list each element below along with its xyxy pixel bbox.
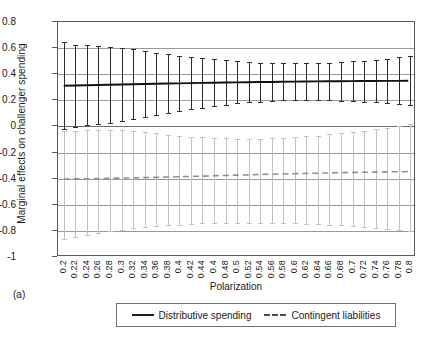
error-bar-cap-lower bbox=[235, 103, 240, 104]
error-bar-cap-lower bbox=[189, 109, 194, 110]
error-bar-cap-lower bbox=[281, 100, 286, 101]
error-bar-stem bbox=[410, 56, 411, 106]
x-tick-label: 0.24 bbox=[81, 260, 91, 278]
error-bar-cap-lower bbox=[316, 224, 321, 225]
error-bar-stem bbox=[98, 130, 99, 234]
error-bar-cap-lower bbox=[166, 113, 171, 114]
x-tick-label: 0.22 bbox=[69, 260, 79, 278]
error-bar-stem bbox=[376, 60, 377, 104]
error-bar-cap-upper bbox=[408, 56, 413, 57]
error-bar-stem bbox=[318, 136, 319, 226]
error-bar-cap-lower bbox=[304, 224, 309, 225]
error-bar-stem bbox=[364, 131, 365, 228]
error-bar-cap-upper bbox=[62, 42, 67, 43]
error-bar-cap-upper bbox=[212, 138, 217, 139]
error-bar-cap-upper bbox=[143, 132, 148, 133]
error-bar-cap-lower bbox=[62, 239, 67, 240]
x-tick-label: 0.58 bbox=[277, 260, 287, 278]
x-tick-label: 0.64 bbox=[312, 260, 322, 278]
error-bar-stem bbox=[341, 133, 342, 226]
error-bar-cap-lower bbox=[408, 105, 413, 106]
x-tick-label: 0.32 bbox=[127, 260, 137, 278]
legend-solid-line-icon bbox=[132, 314, 154, 316]
error-bar-stem bbox=[226, 60, 227, 105]
error-bar-stem bbox=[64, 42, 65, 130]
gridline bbox=[58, 100, 414, 101]
error-bar-cap-upper bbox=[96, 46, 101, 47]
error-bar-stem bbox=[399, 57, 400, 105]
error-bar-cap-upper bbox=[143, 51, 148, 52]
error-bar-cap-upper bbox=[96, 130, 101, 131]
error-bar-stem bbox=[295, 63, 296, 101]
gridline bbox=[58, 48, 414, 49]
x-tick-label: 0.26 bbox=[92, 260, 102, 278]
error-bar-stem bbox=[329, 134, 330, 225]
error-bar-cap-lower bbox=[304, 100, 309, 101]
error-bar-cap-lower bbox=[258, 223, 263, 224]
error-bar-cap-lower bbox=[189, 224, 194, 225]
error-bar-cap-upper bbox=[247, 62, 252, 63]
error-bar-cap-upper bbox=[177, 136, 182, 137]
error-bar-stem bbox=[87, 45, 88, 126]
error-bar-cap-lower bbox=[397, 104, 402, 105]
y-tick-label: 0.6 bbox=[0, 42, 16, 53]
error-bar-stem bbox=[226, 138, 227, 224]
legend-label-contingent-liabilities: Contingent liabilities bbox=[291, 310, 380, 321]
error-bar-cap-lower bbox=[270, 101, 275, 102]
error-bar-cap-upper bbox=[235, 139, 240, 140]
error-bar-cap-lower bbox=[293, 223, 298, 224]
error-bar-cap-lower bbox=[143, 227, 148, 228]
error-bar-stem bbox=[191, 137, 192, 226]
error-bar-cap-upper bbox=[408, 124, 413, 125]
error-bar-cap-upper bbox=[62, 131, 67, 132]
error-bar-stem bbox=[283, 63, 284, 101]
error-bar-cap-lower bbox=[351, 226, 356, 227]
error-bar-stem bbox=[376, 129, 377, 229]
error-bar-cap-upper bbox=[85, 130, 90, 131]
error-bar-cap-upper bbox=[327, 134, 332, 135]
legend-item-distributive-spending: Distributive spending bbox=[132, 310, 252, 321]
error-bar-cap-lower bbox=[247, 223, 252, 224]
error-bar-cap-upper bbox=[189, 57, 194, 58]
error-bar-cap-upper bbox=[397, 126, 402, 127]
x-tick-label: 0.4 bbox=[173, 260, 183, 273]
error-bar-cap-upper bbox=[351, 132, 356, 133]
x-tick-label: 0.56 bbox=[266, 260, 276, 278]
x-tick-label: 0.52 bbox=[243, 260, 253, 278]
error-bar-cap-lower bbox=[212, 223, 217, 224]
error-bar-cap-lower bbox=[293, 100, 298, 101]
error-bar-cap-lower bbox=[96, 124, 101, 125]
error-bar-cap-upper bbox=[316, 63, 321, 64]
error-bar-cap-lower bbox=[281, 223, 286, 224]
error-bar-cap-lower bbox=[120, 121, 125, 122]
y-axis-title: Marginal effects on challenger spending bbox=[16, 9, 27, 259]
error-bar-cap-upper bbox=[270, 63, 275, 64]
x-axis-title: Polarization bbox=[57, 281, 415, 292]
error-bar-cap-upper bbox=[73, 131, 78, 132]
chart-legend: Distributive spending Contingent liabili… bbox=[116, 303, 396, 327]
error-bar-cap-lower bbox=[154, 115, 159, 116]
error-bar-stem bbox=[410, 124, 411, 232]
error-bar-cap-upper bbox=[120, 130, 125, 131]
gridline bbox=[58, 153, 414, 154]
error-bar-cap-upper bbox=[85, 45, 90, 46]
x-tick-label: 0.34 bbox=[139, 260, 149, 278]
y-tick-label: 0 bbox=[0, 120, 16, 131]
error-bar-stem bbox=[306, 136, 307, 224]
error-bar-stem bbox=[98, 46, 99, 126]
error-bar-stem bbox=[110, 130, 111, 233]
error-bar-stem bbox=[156, 53, 157, 116]
error-bar-cap-upper bbox=[374, 129, 379, 130]
error-bar-cap-lower bbox=[200, 223, 205, 224]
gridline bbox=[58, 179, 414, 180]
error-bar-stem bbox=[318, 63, 319, 101]
error-bar-stem bbox=[156, 133, 157, 227]
error-bar-cap-lower bbox=[73, 127, 78, 128]
error-bar-cap-upper bbox=[131, 49, 136, 50]
error-bar-stem bbox=[122, 130, 123, 231]
error-bar-stem bbox=[122, 48, 123, 122]
error-bar-stem bbox=[202, 137, 203, 224]
error-bar-cap-upper bbox=[154, 53, 159, 54]
x-tick-label: 0.5 bbox=[231, 260, 241, 273]
y-tick-label: -0.6 bbox=[0, 198, 16, 209]
